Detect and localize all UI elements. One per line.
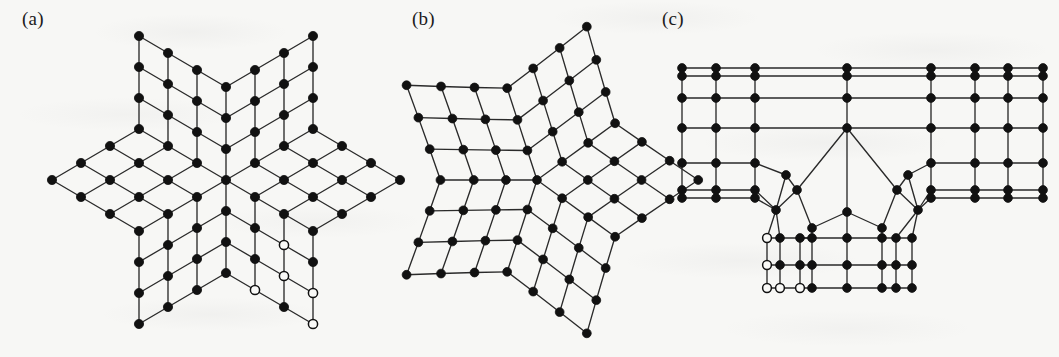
graph-node-filled <box>751 159 760 168</box>
graph-node-filled <box>678 72 687 81</box>
graph-node-filled <box>712 124 721 133</box>
graph-node-filled <box>1004 124 1013 133</box>
graph-node-open <box>763 261 772 270</box>
graph-node-open <box>763 234 772 243</box>
graph-node-filled <box>878 224 887 233</box>
graph-node-filled <box>893 186 902 195</box>
graph-node-filled <box>927 64 936 73</box>
graph-node-filled <box>751 94 760 103</box>
graph-node-filled <box>927 94 936 103</box>
graph-node-filled <box>751 72 760 81</box>
graph-node-filled <box>971 64 980 73</box>
graph-edge <box>797 190 812 228</box>
graph-edge <box>882 190 897 228</box>
graph-node-filled <box>892 234 901 243</box>
graph-node-filled <box>843 124 852 133</box>
graph-node-filled <box>678 186 687 195</box>
graph-node-filled <box>712 186 721 195</box>
graph-node-filled <box>1004 72 1013 81</box>
graph-node-filled <box>751 124 760 133</box>
graph-node-filled <box>971 186 980 195</box>
graph-node-filled <box>1039 159 1048 168</box>
graph-edge <box>847 212 882 228</box>
panel-c <box>0 0 1059 357</box>
graph-node-filled <box>927 124 936 133</box>
graph-node-filled <box>843 72 852 81</box>
graph-node-filled <box>971 159 980 168</box>
graph-node-filled <box>712 64 721 73</box>
graph-edge <box>812 212 847 228</box>
figure-container: (a) (b) (c) <box>0 0 1059 357</box>
graph-node-filled <box>808 234 817 243</box>
graph-node-filled <box>1004 64 1013 73</box>
graph-node-filled <box>1004 194 1013 203</box>
graph-node-filled <box>751 194 760 203</box>
graph-node-filled <box>843 261 852 270</box>
graph-node-filled <box>908 234 917 243</box>
graph-node-filled <box>843 284 852 293</box>
graph-node-filled <box>796 261 805 270</box>
graph-node-filled <box>678 194 687 203</box>
graph-node-filled <box>1004 94 1013 103</box>
graph-edge <box>797 128 847 190</box>
graph-node-filled <box>712 94 721 103</box>
graph-node-filled <box>878 261 887 270</box>
graph-node-filled <box>971 124 980 133</box>
graph-node-filled <box>678 159 687 168</box>
graph-node-filled <box>1039 124 1048 133</box>
graph-node-filled <box>927 72 936 81</box>
graph-node-filled <box>1039 194 1048 203</box>
graph-node-filled <box>892 261 901 270</box>
graph-node-filled <box>878 234 887 243</box>
graph-edge <box>755 163 786 175</box>
graph-node-filled <box>751 186 760 195</box>
graph-node-filled <box>971 194 980 203</box>
graph-node-filled <box>1039 64 1048 73</box>
graph-node-filled <box>772 206 781 215</box>
graph-node-filled <box>782 171 791 180</box>
graph-node-filled <box>843 208 852 217</box>
panel-c-label: (c) <box>662 8 684 30</box>
graph-node-filled <box>843 94 852 103</box>
graph-node-filled <box>843 64 852 73</box>
graph-node-filled <box>1004 159 1013 168</box>
panel-a-label: (a) <box>22 8 44 30</box>
graph-node-filled <box>843 234 852 243</box>
graph-node-filled <box>927 186 936 195</box>
graph-node-filled <box>1039 94 1048 103</box>
graph-node-filled <box>776 234 785 243</box>
graph-node-filled <box>678 124 687 133</box>
graph-node-filled <box>878 284 887 293</box>
graph-node-filled <box>892 284 901 293</box>
panel-b-label: (b) <box>412 8 435 30</box>
graph-node-filled <box>971 72 980 81</box>
graph-node-filled <box>927 159 936 168</box>
graph-node-filled <box>1004 186 1013 195</box>
graph-node-filled <box>712 194 721 203</box>
graph-node-filled <box>793 186 802 195</box>
graph-node-filled <box>808 284 817 293</box>
graph-node-filled <box>776 261 785 270</box>
graph-node-filled <box>908 284 917 293</box>
graph-node-filled <box>808 261 817 270</box>
graph-node-filled <box>904 171 913 180</box>
graph-node-filled <box>678 94 687 103</box>
graph-node-filled <box>678 64 687 73</box>
graph-node-open <box>796 284 805 293</box>
graph-node-filled <box>1039 72 1048 81</box>
graph-edge <box>847 128 897 190</box>
graph-node-filled <box>914 206 923 215</box>
graph-node-open <box>776 284 785 293</box>
graph-node-filled <box>712 72 721 81</box>
graph-node-filled <box>796 234 805 243</box>
panel-c-graph <box>0 0 1059 357</box>
graph-node-filled <box>927 194 936 203</box>
graph-node-filled <box>751 64 760 73</box>
graph-node-filled <box>908 261 917 270</box>
graph-node-filled <box>712 159 721 168</box>
graph-node-filled <box>808 224 817 233</box>
graph-node-open <box>763 284 772 293</box>
graph-node-filled <box>1039 186 1048 195</box>
graph-node-filled <box>971 94 980 103</box>
